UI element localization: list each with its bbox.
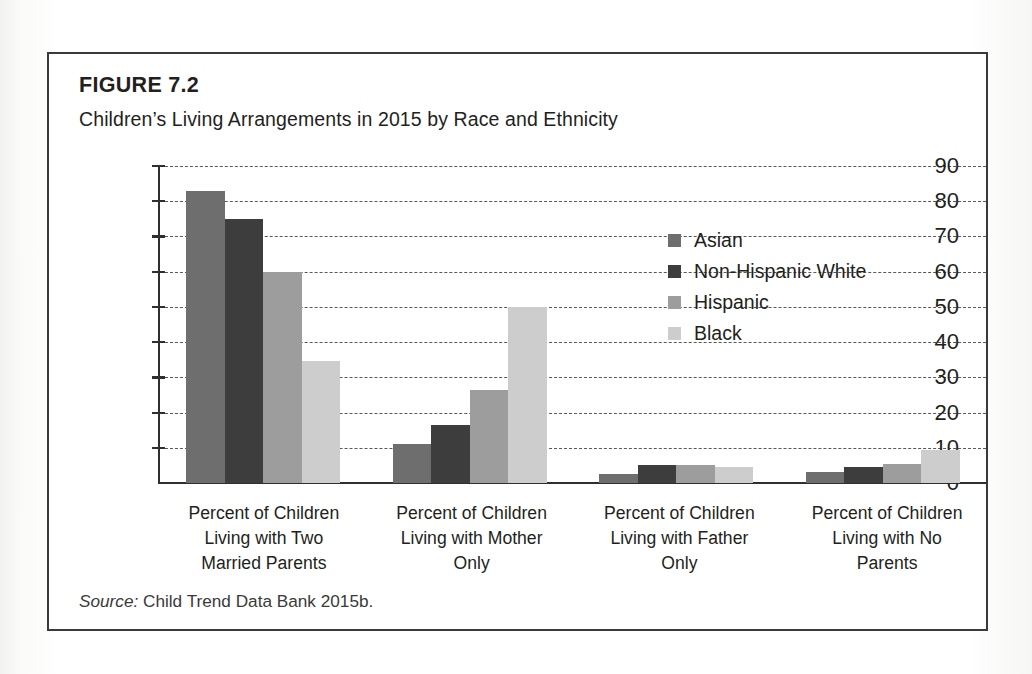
bar-3-non-hispanic-white bbox=[638, 465, 677, 483]
bar-4-black bbox=[921, 450, 960, 483]
figure-container: FIGURE 7.2 Children’s Living Arrangement… bbox=[47, 52, 988, 631]
figure-title: Children’s Living Arrangements in 2015 b… bbox=[79, 108, 618, 131]
source-note: Source: Child Trend Data Bank 2015b. bbox=[79, 591, 373, 612]
x-axis-category-labels: Percent of ChildrenLiving with TwoMarrie… bbox=[160, 501, 991, 591]
source-text: Child Trend Data Bank 2015b. bbox=[143, 591, 373, 611]
legend-label: Asian bbox=[694, 229, 743, 252]
category-label-line: Percent of Children bbox=[162, 501, 366, 526]
category-label-line: Married Parents bbox=[162, 551, 366, 576]
figure-label: FIGURE 7.2 bbox=[79, 73, 199, 98]
legend-swatch-icon bbox=[668, 327, 681, 340]
bar-4-hispanic bbox=[883, 464, 922, 483]
legend-swatch-icon bbox=[668, 234, 681, 247]
category-label-line: Living with Father bbox=[578, 526, 782, 551]
category-label-1: Percent of ChildrenLiving with TwoMarrie… bbox=[160, 501, 368, 591]
legend-item-asian: Asian bbox=[668, 225, 948, 256]
category-label-2: Percent of ChildrenLiving with MotherOnl… bbox=[368, 501, 576, 591]
category-label-line: Percent of Children bbox=[578, 501, 782, 526]
legend-item-hispanic: Hispanic bbox=[668, 287, 948, 318]
category-label-3: Percent of ChildrenLiving with FatherOnl… bbox=[576, 501, 784, 591]
category-label-line: Percent of Children bbox=[370, 501, 574, 526]
bar-1-black bbox=[302, 361, 341, 483]
chart-legend: AsianNon-Hispanic WhiteHispanicBlack bbox=[668, 225, 948, 349]
legend-swatch-icon bbox=[668, 265, 681, 278]
category-label-line: Living with Two bbox=[162, 526, 366, 551]
bar-3-black bbox=[715, 467, 754, 483]
bar-1-asian bbox=[186, 191, 225, 483]
legend-item-non-hispanic-white: Non-Hispanic White bbox=[668, 256, 948, 287]
category-label-line: Living with Mother bbox=[370, 526, 574, 551]
chart-plot-area: 0102030405060708090 AsianNon-Hispanic Wh… bbox=[79, 154, 959, 499]
bar-3-hispanic bbox=[676, 465, 715, 483]
legend-label: Non-Hispanic White bbox=[694, 260, 866, 283]
bar-3-asian bbox=[599, 474, 638, 483]
category-label-line: Percent of Children bbox=[785, 501, 989, 526]
category-label-line: Only bbox=[578, 551, 782, 576]
bar-1-hispanic bbox=[263, 272, 302, 483]
bar-2-black bbox=[508, 307, 547, 483]
category-label-4: Percent of ChildrenLiving with NoParents bbox=[783, 501, 991, 591]
bar-2-non-hispanic-white bbox=[431, 425, 470, 483]
legend-label: Hispanic bbox=[694, 291, 769, 314]
legend-swatch-icon bbox=[668, 296, 681, 309]
legend-label: Black bbox=[694, 322, 742, 345]
bar-2-hispanic bbox=[470, 390, 509, 483]
bar-2-asian bbox=[393, 444, 432, 483]
category-label-line: Only bbox=[370, 551, 574, 576]
bar-1-non-hispanic-white bbox=[225, 219, 264, 483]
legend-item-black: Black bbox=[668, 318, 948, 349]
category-label-line: Living with No bbox=[785, 526, 989, 551]
bar-4-asian bbox=[806, 472, 845, 483]
category-label-line: Parents bbox=[785, 551, 989, 576]
bar-4-non-hispanic-white bbox=[844, 467, 883, 483]
source-prefix: Source: bbox=[79, 591, 138, 611]
